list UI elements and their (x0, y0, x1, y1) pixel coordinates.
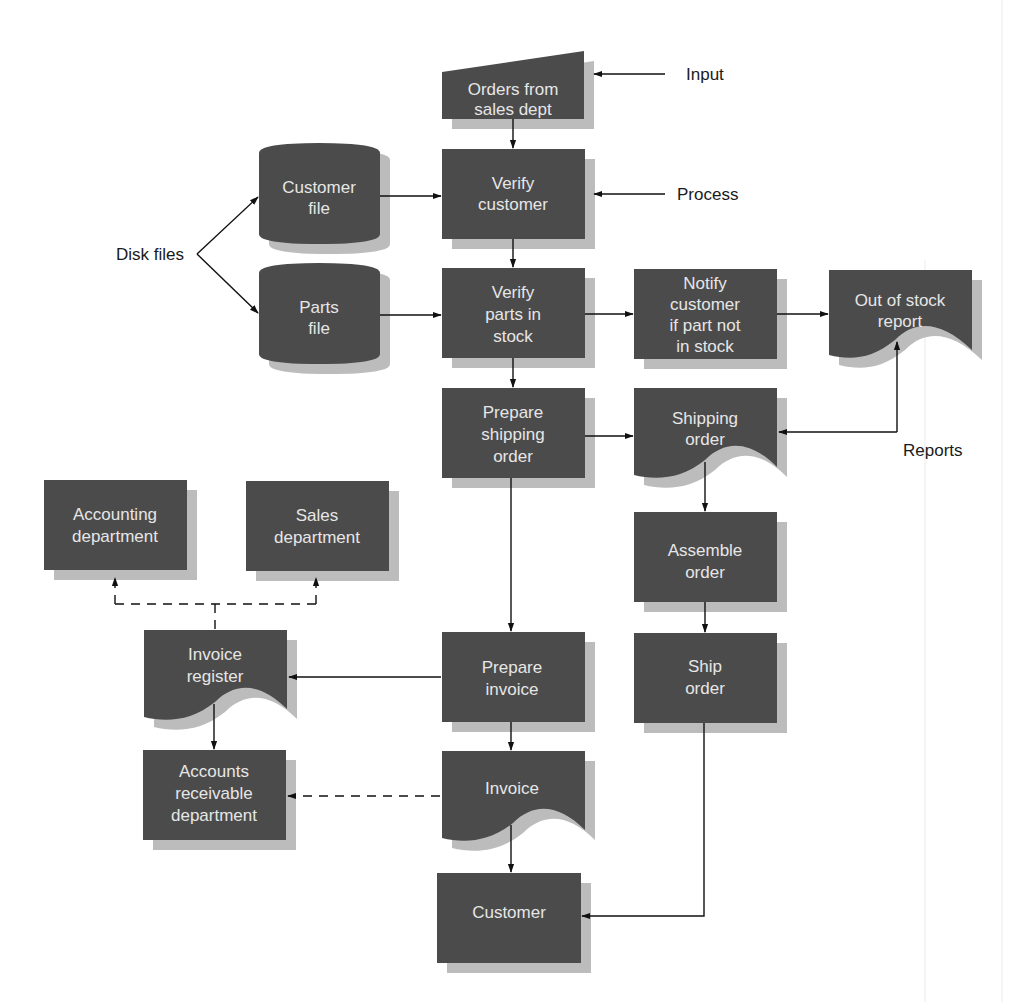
label-verify-customer-line2: customer (478, 195, 548, 214)
label-assemble-line2: order (685, 563, 725, 582)
label-invoice-register-line1: Invoice (188, 645, 242, 664)
annotation-disk-files: Disk files (116, 245, 184, 264)
label-accounting-line1: Accounting (73, 505, 157, 524)
label-prepare-shipping-line2: shipping (481, 425, 544, 444)
edge-disk-files-pointer-1 (197, 197, 258, 254)
label-ship-line2: order (685, 679, 725, 698)
label-sales-line1: Sales (296, 506, 339, 525)
label-ar-line3: department (171, 806, 257, 825)
label-out-of-stock-line2: report (878, 312, 923, 331)
annotation-reports: Reports (903, 441, 963, 460)
order-processing-flowchart: Orders from sales dept Verify customer C… (0, 0, 1020, 1002)
label-verify-parts-line2: parts in (485, 305, 541, 324)
label-notify-line2: customer (670, 295, 740, 314)
edge-disk-files-pointer-2 (197, 254, 258, 313)
node-ship-order (634, 633, 777, 723)
label-invoice-line1: Invoice (485, 779, 539, 798)
label-prepare-invoice-line1: Prepare (482, 658, 542, 677)
label-customer-line1: Customer (472, 903, 546, 922)
label-notify-line3: if part not (670, 316, 741, 335)
label-orders-line1: Orders from (468, 80, 559, 99)
node-labels: Orders from sales dept Verify customer C… (72, 80, 946, 922)
annotation-process: Process (677, 185, 738, 204)
label-shipping-order-line1: Shipping (672, 409, 738, 428)
label-prepare-invoice-line2: invoice (486, 680, 539, 699)
node-verify-customer (442, 149, 585, 239)
edge-ship-to-customer (582, 723, 704, 916)
label-sales-line2: department (274, 528, 360, 547)
annotation-input: Input (686, 65, 724, 84)
node-prepare-invoice (442, 632, 585, 722)
label-prepare-shipping-line3: order (493, 447, 533, 466)
label-notify-line1: Notify (683, 274, 727, 293)
label-shipping-order-line2: order (685, 430, 725, 449)
label-parts-file-line1: Parts (299, 298, 339, 317)
label-invoice-register-line2: register (187, 667, 244, 686)
label-verify-parts-line3: stock (493, 327, 533, 346)
node-sales-dept (246, 481, 389, 571)
label-notify-line4: in stock (676, 337, 734, 356)
label-verify-customer-line1: Verify (492, 174, 535, 193)
label-customer-file-line1: Customer (282, 178, 356, 197)
label-parts-file-line2: file (308, 319, 330, 338)
label-orders-line2: sales dept (474, 100, 552, 119)
label-ar-line2: receivable (175, 784, 253, 803)
label-ar-line1: Accounts (179, 762, 249, 781)
label-assemble-line1: Assemble (668, 541, 743, 560)
label-verify-parts-line1: Verify (492, 283, 535, 302)
label-prepare-shipping-line1: Prepare (483, 403, 543, 422)
node-accounting-dept (44, 480, 187, 570)
label-customer-file-line2: file (308, 199, 330, 218)
label-accounting-line2: department (72, 527, 158, 546)
label-out-of-stock-line1: Out of stock (855, 291, 946, 310)
label-ship-line1: Ship (688, 657, 722, 676)
